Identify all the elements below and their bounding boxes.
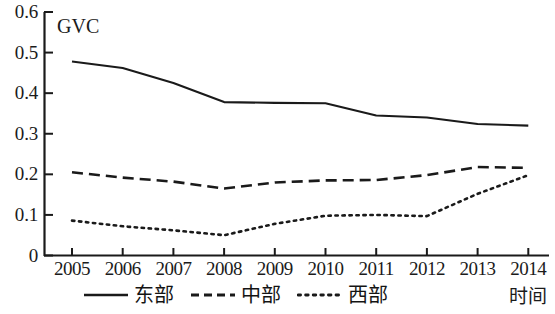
x-axis-title: 时间 <box>509 287 547 307</box>
legend-label: 东部 <box>134 285 174 305</box>
chart-legend: 东部中部西部 <box>0 285 470 305</box>
x-tick-label: 2009 <box>247 259 303 279</box>
x-axis-ticks <box>72 248 528 255</box>
x-tick-label: 2013 <box>450 259 506 279</box>
legend-item-1: 中部 <box>190 285 281 305</box>
legend-swatch-dotted <box>297 289 343 301</box>
y-tick-label: 0.2 <box>0 164 38 183</box>
legend-swatch-dashed <box>190 289 236 301</box>
data-series-group <box>72 62 528 236</box>
y-axis-title: GVC <box>57 16 99 36</box>
y-tick-label: 0.5 <box>0 43 38 62</box>
x-tick-label: 2006 <box>95 259 151 279</box>
y-tick-label: 0.4 <box>0 83 38 102</box>
y-tick-label: 0 <box>0 246 38 265</box>
series-line-1 <box>72 167 528 189</box>
x-tick-label: 2010 <box>298 259 354 279</box>
series-line-2 <box>72 175 528 235</box>
y-tick-label: 0.1 <box>0 205 38 224</box>
legend-item-0: 东部 <box>83 285 174 305</box>
legend-swatch-solid <box>83 289 129 301</box>
x-tick-label: 2012 <box>399 259 455 279</box>
series-line-0 <box>72 62 528 126</box>
x-tick-label: 2011 <box>348 259 404 279</box>
x-tick-label: 2005 <box>44 259 100 279</box>
legend-label: 中部 <box>241 285 281 305</box>
legend-label: 西部 <box>348 285 388 305</box>
y-tick-label: 0.3 <box>0 124 38 143</box>
legend-item-2: 西部 <box>297 285 388 305</box>
x-tick-label: 2007 <box>145 259 201 279</box>
x-tick-label: 2014 <box>500 259 555 279</box>
gvc-line-chart: 0.60.50.40.30.20.10 20052006200720082009… <box>0 0 555 314</box>
x-tick-label: 2008 <box>196 259 252 279</box>
y-tick-label: 0.6 <box>0 2 38 21</box>
